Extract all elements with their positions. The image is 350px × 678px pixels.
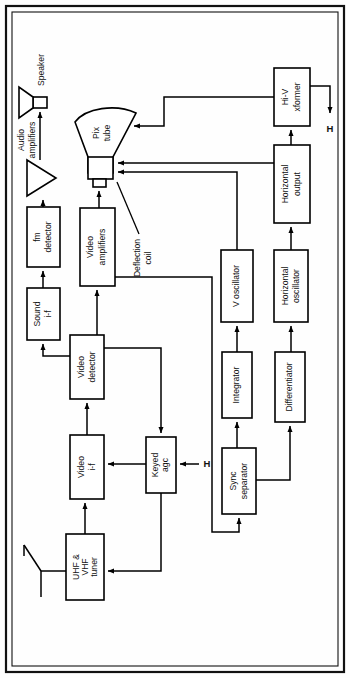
label-audio-amplifiers-line2: amplifiers	[27, 122, 37, 159]
block-label-hi-v-xformer-line2: xformer	[292, 82, 302, 111]
block-horizontal-oscillator[interactable]: Horizontal oscillator	[274, 250, 308, 322]
block-label-video-if-line1: Video	[76, 456, 86, 478]
wire-sync-separator-to-differentiator	[256, 426, 290, 480]
block-uhf-vhf-tuner[interactable]: UHF & VHF tuner	[66, 534, 104, 600]
wire-keyed-agc-to-tuner	[108, 493, 161, 571]
block-label-fm-detector-line2: detector	[43, 221, 53, 252]
block-label-video-detector-line2: detector	[87, 351, 97, 382]
block-label-differentiator: Differentiator	[284, 362, 294, 411]
wire-hi-v-xformer-to-pix-tube	[134, 97, 274, 126]
h-input-marker: H	[180, 458, 211, 469]
audio-amplifiers-icon[interactable]: Audio amplifiers	[16, 122, 56, 196]
block-label-sound-if-line1: Sound	[32, 301, 42, 326]
wire-video-detector-to-sound-if	[43, 344, 70, 356]
label-h-input: H	[204, 458, 211, 469]
block-diagram-svg: UHF & VHF tuner Video i-f Video detector…	[0, 0, 350, 678]
deflection-coil-callout: Deflection coil	[117, 182, 153, 277]
label-h-output: H	[327, 123, 334, 134]
block-label-video-amplifiers-line2: amplifiers	[97, 229, 107, 266]
block-integrator[interactable]: Integrator	[222, 352, 252, 418]
block-label-video-amplifiers-line1: Video	[85, 236, 95, 258]
label-speaker: Speaker	[36, 54, 46, 86]
block-label-horizontal-output-line1: Horizontal	[280, 165, 290, 204]
antenna-icon	[24, 545, 66, 597]
h-output-marker: H	[310, 86, 334, 134]
block-v-oscillator[interactable]: V oscillator	[221, 250, 253, 322]
speaker-icon: Speaker	[19, 54, 47, 118]
block-label-video-detector-line1: Video	[76, 356, 86, 378]
label-audio-amplifiers-line1: Audio	[16, 129, 26, 151]
block-label-hi-v-xformer-line1: Hi-V	[280, 88, 290, 105]
block-label-uhf-vhf-tuner-line3: tuner	[89, 557, 99, 577]
wire-hi-v-xformer-to-h-output	[310, 86, 330, 113]
block-hi-v-xformer[interactable]: Hi-V xformer	[274, 68, 310, 126]
block-label-sync-separator-line2: separator	[239, 463, 249, 499]
label-pix-tube-line2: tube	[102, 124, 112, 141]
block-sync-separator[interactable]: Sync separator	[222, 448, 256, 514]
block-sound-if[interactable]: Sound i-f	[27, 288, 60, 340]
block-label-v-oscillator: V oscillator	[231, 265, 241, 307]
wire-video-detector-to-keyed-agc	[104, 348, 161, 433]
block-label-sync-separator-line1: Sync	[228, 471, 238, 491]
block-differentiator[interactable]: Differentiator	[275, 352, 305, 422]
label-deflection-coil-line1: Deflection	[132, 239, 142, 277]
block-horizontal-output[interactable]: Horizontal output	[274, 145, 310, 223]
pix-tube-icon: Pix tube	[75, 108, 136, 187]
block-video-detector[interactable]: Video detector	[70, 335, 104, 399]
block-label-horizontal-oscillator-line2: oscillator	[291, 269, 301, 303]
block-video-amplifiers[interactable]: Video amplifiers	[80, 208, 115, 286]
block-label-keyed-agc-line2: agc	[160, 457, 170, 472]
block-keyed-agc[interactable]: Keyed agc	[146, 437, 176, 493]
block-label-video-if-line2: i-f	[87, 463, 97, 471]
block-label-horizontal-oscillator-line1: Horizontal	[280, 267, 290, 306]
label-pix-tube-line1: Pix	[91, 126, 101, 139]
block-video-if[interactable]: Video i-f	[70, 435, 104, 499]
wire-v-oscillator-to-deflection-coil	[118, 172, 237, 250]
block-label-sound-if-line2: i-f	[43, 310, 53, 318]
block-fm-detector[interactable]: fm detector	[27, 207, 60, 267]
block-label-fm-detector-line1: fm	[32, 232, 42, 242]
label-deflection-coil-line2: coil	[143, 251, 153, 264]
block-label-keyed-agc-line1: Keyed	[150, 453, 160, 478]
block-label-integrator: Integrator	[231, 366, 241, 403]
block-label-horizontal-output-line2: output	[292, 171, 302, 196]
diagram-canvas: UHF & VHF tuner Video i-f Video detector…	[0, 0, 350, 678]
